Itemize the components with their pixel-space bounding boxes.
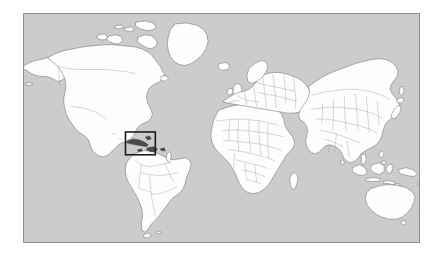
sri-lanka-shape [340,160,344,165]
java-shape [365,178,380,182]
world-map-svg [24,14,419,242]
page-root [0,0,443,261]
world-map-frame [23,13,420,243]
tasmania-shape [401,220,406,225]
